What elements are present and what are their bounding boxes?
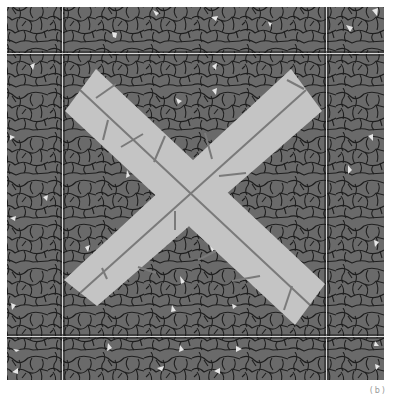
figure-caption: (b)	[370, 386, 387, 395]
paving-plan-figure	[0, 0, 401, 396]
paving-field	[7, 7, 384, 380]
